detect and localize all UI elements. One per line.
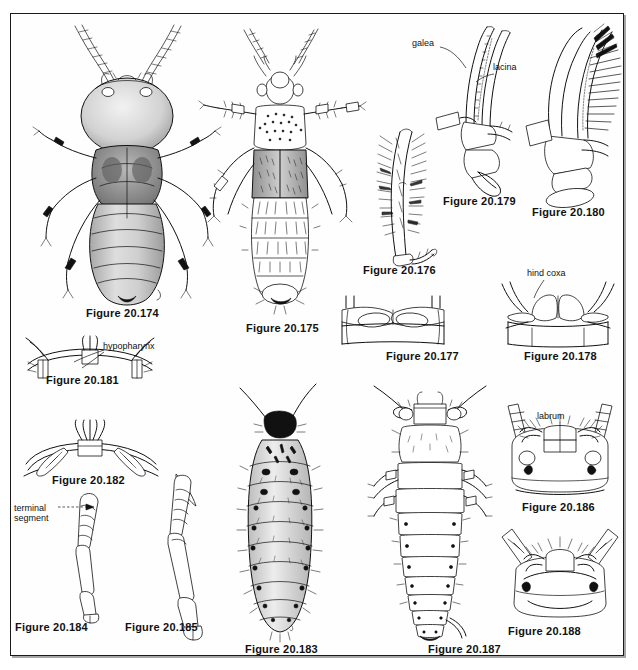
label-hind-coxa: hind coxa bbox=[527, 268, 566, 278]
figure-art-20-185 bbox=[160, 474, 226, 642]
label-terminal-line1: terminal bbox=[14, 503, 46, 513]
figure-caption-20-186: Figure 20.186 bbox=[522, 501, 595, 513]
figure-caption-20-188: Figure 20.188 bbox=[508, 625, 581, 637]
figure-art-20-188 bbox=[494, 527, 626, 625]
leader-lines-20-179 bbox=[400, 30, 520, 100]
figure-caption-20-175: Figure 20.175 bbox=[246, 322, 319, 334]
figure-caption-20-179: Figure 20.179 bbox=[443, 195, 516, 207]
leader-line-20-178 bbox=[520, 278, 580, 308]
figure-caption-20-184: Figure 20.184 bbox=[15, 621, 88, 633]
figure-caption-20-182: Figure 20.182 bbox=[52, 474, 125, 486]
leader-line-20-184 bbox=[56, 500, 102, 516]
figure-caption-20-180: Figure 20.180 bbox=[532, 206, 605, 218]
figure-caption-20-187: Figure 20.187 bbox=[428, 643, 501, 655]
figure-art-20-183 bbox=[232, 382, 344, 644]
leader-lines-20-181 bbox=[60, 348, 130, 370]
label-labrum: labrum bbox=[537, 411, 565, 421]
label-terminal-line2: segment bbox=[14, 513, 49, 523]
leader-line-20-186 bbox=[550, 422, 574, 454]
figure-caption-20-176: Figure 20.176 bbox=[363, 264, 436, 276]
figure-art-20-187 bbox=[366, 384, 496, 642]
illustration-plate: Figure 20.174 bbox=[0, 0, 638, 670]
figure-art-20-177 bbox=[340, 296, 466, 352]
figure-caption-20-174: Figure 20.174 bbox=[86, 307, 159, 319]
figure-art-20-176 bbox=[366, 124, 438, 266]
figure-art-20-182 bbox=[20, 416, 170, 478]
figure-caption-20-181: Figure 20.181 bbox=[46, 374, 119, 386]
figure-caption-20-183: Figure 20.183 bbox=[245, 643, 318, 655]
label-terminal-segment: terminal segment bbox=[14, 503, 49, 524]
figure-caption-20-185: Figure 20.185 bbox=[125, 621, 198, 633]
figure-art-20-175 bbox=[202, 18, 372, 323]
figure-caption-20-178: Figure 20.178 bbox=[524, 350, 597, 362]
figure-art-20-180 bbox=[524, 26, 628, 208]
figure-caption-20-177: Figure 20.177 bbox=[386, 350, 459, 362]
